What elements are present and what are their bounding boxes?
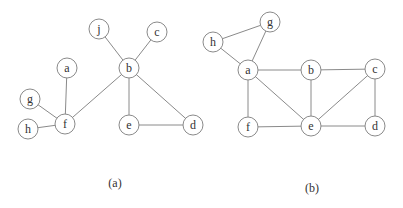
node-a-g: g: [20, 89, 40, 109]
node-a-c: c: [147, 22, 167, 42]
node-b-e: e: [301, 116, 321, 136]
node-a-f: f: [55, 114, 75, 134]
graph-a-edges: [28, 29, 193, 129]
graph-a: jcbagfhed (a): [18, 19, 203, 190]
graph-a-caption: (a): [108, 176, 121, 190]
node-b-f: f: [238, 117, 258, 137]
node-a-b: b: [119, 58, 139, 78]
graph-diagram-canvas: jcbagfhed (a) ghabcfed (b): [0, 0, 403, 208]
node-label: g: [267, 15, 273, 29]
edge-a-b-d: [129, 68, 193, 125]
node-label: e: [126, 118, 131, 132]
node-label: a: [64, 61, 70, 75]
node-b-a: a: [238, 60, 258, 80]
node-a-h: h: [18, 119, 38, 139]
node-b-h: h: [203, 32, 223, 52]
node-b-b: b: [301, 60, 321, 80]
node-b-g: g: [260, 12, 280, 32]
node-b-d: d: [365, 116, 385, 136]
edge-b-c-e: [311, 69, 375, 126]
node-a-a: a: [57, 58, 77, 78]
node-label: f: [246, 120, 250, 134]
node-label: c: [372, 62, 377, 76]
graph-b: ghabcfed (b): [203, 12, 385, 195]
graph-b-edges: [213, 22, 375, 127]
node-label: f: [63, 117, 67, 131]
node-label: j: [96, 22, 100, 36]
node-label: g: [27, 92, 33, 106]
node-label: h: [210, 35, 216, 49]
node-label: c: [154, 25, 159, 39]
node-label: h: [25, 122, 31, 136]
node-label: b: [126, 61, 132, 75]
node-a-j: j: [89, 19, 109, 39]
node-label: b: [308, 63, 314, 77]
edge-a-b-f: [65, 68, 129, 124]
graph-b-nodes: ghabcfed: [203, 12, 385, 137]
node-label: a: [245, 63, 251, 77]
node-label: e: [308, 119, 313, 133]
edge-b-a-e: [248, 70, 311, 126]
graph-b-caption: (b): [305, 181, 319, 195]
node-label: d: [190, 118, 196, 132]
node-a-d: d: [183, 115, 203, 135]
node-a-e: e: [119, 115, 139, 135]
node-label: d: [372, 119, 378, 133]
graph-a-nodes: jcbagfhed: [18, 19, 203, 139]
node-b-c: c: [365, 59, 385, 79]
